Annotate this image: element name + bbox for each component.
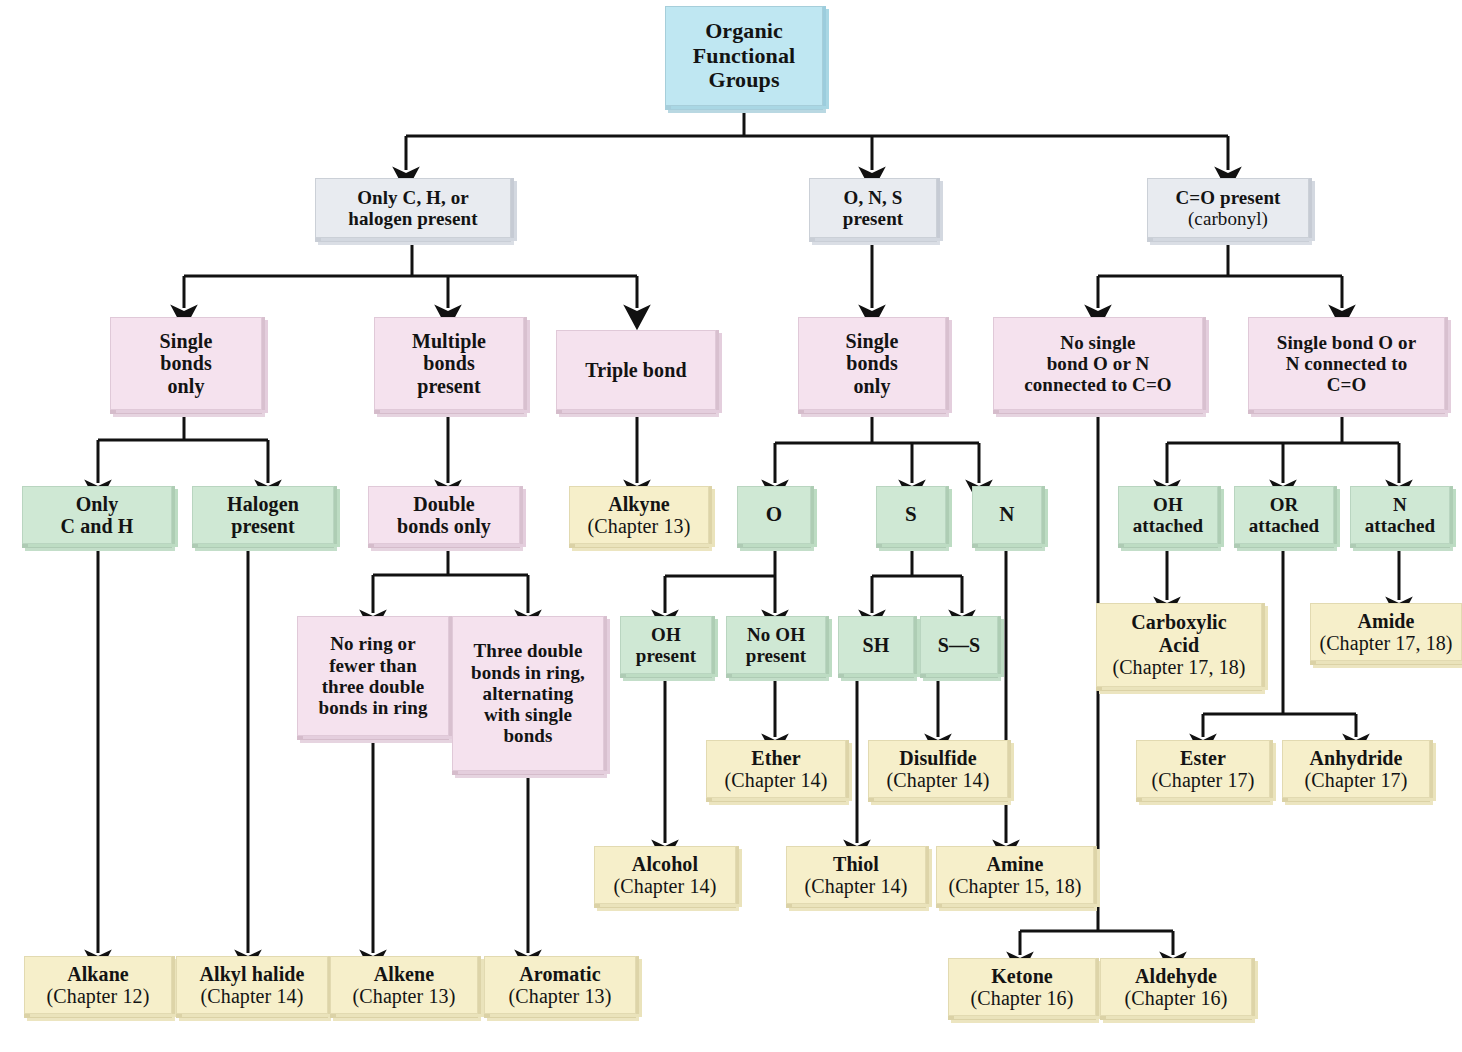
node-s-s[interactable]: S—S <box>920 616 998 674</box>
label-line3: C=O <box>1327 374 1367 395</box>
label-line1: N <box>1393 494 1407 515</box>
label-line1: C=O present <box>1176 187 1281 208</box>
node-ether[interactable]: Ether (Chapter 14) <box>706 740 846 798</box>
node-alkane[interactable]: Alkane (Chapter 12) <box>24 956 172 1014</box>
label-name: Alkene <box>374 963 435 985</box>
label-line3: only <box>167 375 204 397</box>
label-chapter: (Chapter 17) <box>1142 769 1264 791</box>
label-line3: three double <box>322 676 425 697</box>
label-line1: OH <box>651 624 681 645</box>
label-line1: Only <box>76 493 119 515</box>
label-line2: attached <box>1365 515 1435 536</box>
label-name: Ether <box>751 747 800 769</box>
label-chapter: (Chapter 14) <box>874 769 1002 791</box>
node-thiol[interactable]: Thiol (Chapter 14) <box>786 846 926 904</box>
node-or-attached[interactable]: OR attached <box>1234 486 1334 544</box>
node-amine[interactable]: Amine (Chapter 15, 18) <box>936 846 1094 904</box>
node-alkyl-halide[interactable]: Alkyl halide (Chapter 14) <box>176 956 328 1014</box>
node-only-c-and-h[interactable]: Only C and H <box>22 486 172 544</box>
node-multiple-bonds-present[interactable]: Multiple bonds present <box>374 317 524 410</box>
node-ketone[interactable]: Ketone (Chapter 16) <box>948 958 1096 1016</box>
label-line1: O <box>766 502 782 526</box>
node-single-bonds-only-left[interactable]: Single bonds only <box>110 317 262 410</box>
node-single-bonds-only-middle[interactable]: Single bonds only <box>798 317 946 410</box>
node-ester[interactable]: Ester (Chapter 17) <box>1136 740 1270 798</box>
label-line4: with single <box>484 704 572 725</box>
label-line2: attached <box>1249 515 1319 536</box>
label-line1: Halogen <box>227 493 299 515</box>
node-anhydride[interactable]: Anhydride (Chapter 17) <box>1282 740 1430 798</box>
node-triple-bond[interactable]: Triple bond <box>556 330 716 410</box>
node-n-atom[interactable]: N <box>972 486 1042 544</box>
label-line1: SH <box>863 634 890 656</box>
node-no-single-bond-o-or-n[interactable]: No single bond O or N connected to C=O <box>993 317 1203 410</box>
node-alkene[interactable]: Alkene (Chapter 13) <box>330 956 478 1014</box>
node-single-bond-o-or-n[interactable]: Single bond O or N connected to C=O <box>1248 317 1445 410</box>
label-line1: No ring or <box>330 633 415 654</box>
label-chapter: (Chapter 12) <box>30 985 166 1007</box>
label-chapter: (Chapter 17, 18) <box>1316 632 1456 654</box>
label-line1: Single <box>160 330 213 352</box>
label-line1: No OH <box>747 624 805 645</box>
flowchart-canvas: Organic Functional Groups Only C, H, or … <box>0 0 1462 1052</box>
label-name: Alkane <box>67 963 129 985</box>
label-line1: Double <box>413 493 475 515</box>
label-line2: bonds <box>423 352 475 374</box>
label-line1: Three double <box>473 640 582 661</box>
label-line1: Single <box>846 330 899 352</box>
node-aromatic[interactable]: Aromatic (Chapter 13) <box>484 956 636 1014</box>
label-line5: bonds <box>503 725 552 746</box>
node-organic-functional-groups[interactable]: Organic Functional Groups <box>665 6 823 106</box>
node-title-line2: Functional <box>693 43 795 68</box>
label-chapter: (Chapter 14) <box>712 769 840 791</box>
node-oh-present[interactable]: OH present <box>620 616 712 674</box>
label-line2: bonds <box>846 352 898 374</box>
node-alcohol[interactable]: Alcohol (Chapter 14) <box>594 846 736 904</box>
label-line1: OR <box>1270 494 1299 515</box>
node-carboxylic-acid[interactable]: Carboxylic Acid (Chapter 17, 18) <box>1096 603 1262 687</box>
label-line4: bonds in ring <box>318 697 427 718</box>
label-line1: S <box>905 502 917 526</box>
node-carbonyl-present[interactable]: C=O present (carbonyl) <box>1147 178 1309 238</box>
node-oh-attached[interactable]: OH attached <box>1118 486 1218 544</box>
node-no-oh-present[interactable]: No OH present <box>726 616 826 674</box>
label-name: Thiol <box>833 853 879 875</box>
node-o-n-s-present[interactable]: O, N, S present <box>809 178 937 238</box>
label-line1: No single <box>1060 332 1135 353</box>
node-no-ring-or-fewer[interactable]: No ring or fewer than three double bonds… <box>297 616 449 736</box>
node-title-line3: Groups <box>708 67 779 92</box>
label-line3: only <box>853 375 890 397</box>
label-chapter: (Chapter 13) <box>490 985 630 1007</box>
label-line1: O, N, S <box>844 187 903 208</box>
node-sh[interactable]: SH <box>838 616 914 674</box>
label-chapter: (Chapter 13) <box>575 515 703 537</box>
label-name: Alkyne <box>608 493 670 515</box>
node-halogen-present[interactable]: Halogen present <box>192 486 334 544</box>
label-line3: present <box>417 375 481 397</box>
label-name: Disulfide <box>899 747 977 769</box>
label-name: Ketone <box>991 965 1053 987</box>
label-line2: (carbonyl) <box>1153 208 1303 229</box>
label-chapter: (Chapter 16) <box>954 987 1090 1009</box>
node-n-attached[interactable]: N attached <box>1350 486 1450 544</box>
node-alkyne[interactable]: Alkyne (Chapter 13) <box>569 486 709 544</box>
node-aldehyde[interactable]: Aldehyde (Chapter 16) <box>1100 958 1252 1016</box>
node-double-bonds-only[interactable]: Double bonds only <box>368 486 520 544</box>
node-amide[interactable]: Amide (Chapter 17, 18) <box>1310 603 1462 661</box>
label-line2: bonds in ring, <box>471 662 585 683</box>
node-o-atom[interactable]: O <box>737 486 811 544</box>
node-only-c-h-halogen[interactable]: Only C, H, or halogen present <box>315 178 511 238</box>
label-line2: bonds <box>160 352 212 374</box>
node-s-atom[interactable]: S <box>876 486 946 544</box>
label-line2: bonds only <box>397 515 491 537</box>
node-three-double-bonds-in-ring[interactable]: Three double bonds in ring, alternating … <box>452 616 604 771</box>
label-chapter: (Chapter 15, 18) <box>942 875 1088 897</box>
label-line2: present <box>843 208 904 229</box>
label-line1: Triple bond <box>585 359 686 381</box>
label-line1: S—S <box>938 634 981 656</box>
node-disulfide[interactable]: Disulfide (Chapter 14) <box>868 740 1008 798</box>
label-chapter: (Chapter 14) <box>792 875 920 897</box>
label-line3: connected to C=O <box>1024 374 1172 395</box>
label-chapter: (Chapter 16) <box>1106 987 1246 1009</box>
label-name2: Acid <box>1159 634 1199 656</box>
